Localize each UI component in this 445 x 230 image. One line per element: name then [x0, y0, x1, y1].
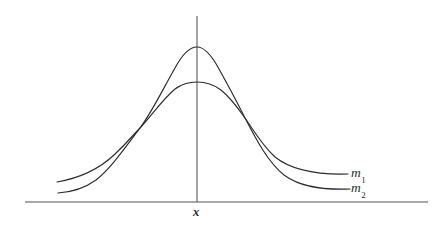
curve-label-m2-base: m [351, 180, 361, 195]
figure-container: m1 m2 x [0, 0, 445, 230]
curve-m1 [57, 82, 348, 182]
curve-label-m2: m2 [351, 181, 365, 198]
distribution-curves-plot [0, 0, 445, 230]
x-axis-label: x [193, 206, 199, 219]
curve-label-m2-subscript: 2 [361, 190, 365, 200]
curve-label-m1-base: m [351, 165, 361, 180]
